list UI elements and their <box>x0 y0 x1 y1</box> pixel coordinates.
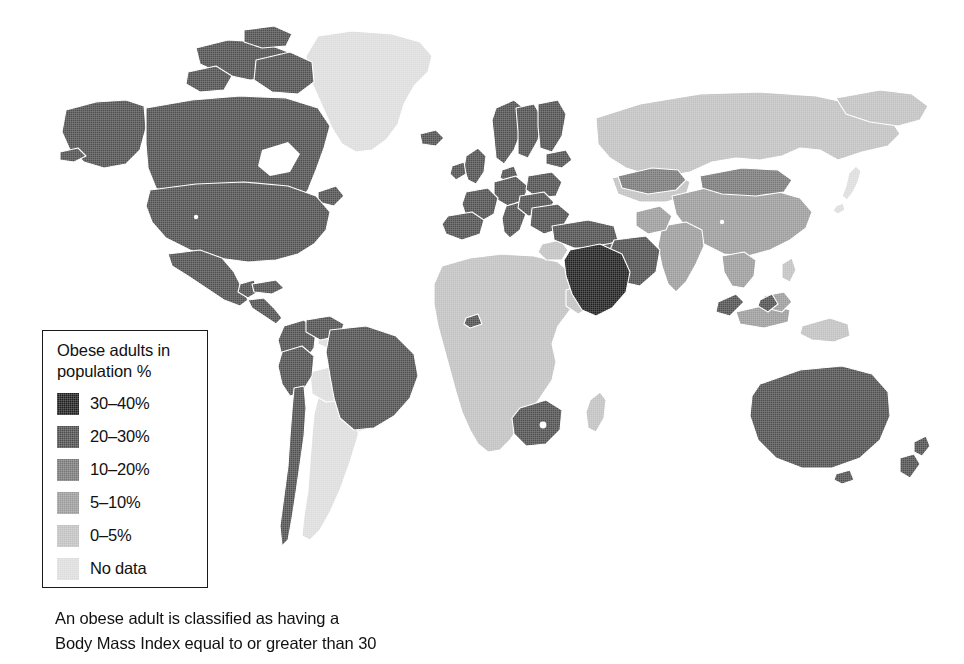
region-iceland <box>420 130 444 146</box>
legend-row-no-data[interactable]: No data <box>57 552 207 585</box>
region-baffin-island <box>254 52 314 94</box>
region-philippines <box>782 258 796 282</box>
region-cuba <box>252 280 284 294</box>
map-mark-usa <box>194 215 198 219</box>
region-central-america <box>248 298 282 324</box>
region-tasmania <box>834 470 854 484</box>
region-finland <box>538 100 566 152</box>
legend-row-20-30[interactable]: 20–30% <box>57 420 207 453</box>
legend-title: Obese adults in population % <box>57 340 199 382</box>
region-mongolia <box>700 168 792 196</box>
legend-swatch-20-30 <box>57 426 79 448</box>
region-southeast-asia <box>722 252 756 288</box>
legend-swatch-30-40 <box>57 393 79 415</box>
legend-label-10-20: 10–20% <box>90 460 149 479</box>
region-new-zealand-south <box>900 454 920 478</box>
legend-swatch-5-10 <box>57 492 79 514</box>
legend-swatch-10-20 <box>57 459 79 481</box>
legend-title-line-2: population % <box>57 361 199 382</box>
legend-row-30-40[interactable]: 30–40% <box>57 387 207 420</box>
legend-label-no-data: No data <box>90 559 146 578</box>
region-japan-south <box>833 203 845 214</box>
region-india <box>658 222 704 292</box>
legend-label-0-5: 0–5% <box>90 526 131 545</box>
region-australia <box>750 366 890 468</box>
legend-swatch-no-data <box>57 558 79 580</box>
region-spain <box>442 212 484 240</box>
legend-row-0-5[interactable]: 0–5% <box>57 519 207 552</box>
map-mark-lesotho <box>540 422 547 429</box>
region-chile <box>280 386 306 546</box>
caption-line-2: Body Mass Index equal to or greater than… <box>55 631 575 656</box>
region-new-zealand <box>914 436 930 456</box>
region-brazil <box>326 326 418 430</box>
legend-label-5-10: 5–10% <box>90 493 140 512</box>
region-pakistan <box>636 206 672 234</box>
region-ireland <box>450 162 466 180</box>
region-baltics <box>546 150 572 168</box>
legend-label-30-40: 30–40% <box>90 394 149 413</box>
map-legend: Obese adults in population % 30–40% 20–3… <box>42 330 208 588</box>
figure-caption: An obese adult is classified as having a… <box>55 606 575 656</box>
caption-line-1: An obese adult is classified as having a <box>55 606 575 631</box>
region-ellesmere <box>244 26 292 48</box>
region-papua <box>800 318 850 342</box>
legend-label-20-30: 20–30% <box>90 427 149 446</box>
legend-swatch-0-5 <box>57 525 79 547</box>
region-united-kingdom <box>464 148 486 184</box>
legend-row-5-10[interactable]: 5–10% <box>57 486 207 519</box>
map-mark-china <box>720 220 724 224</box>
region-madagascar <box>586 392 606 432</box>
legend-row-10-20[interactable]: 10–20% <box>57 453 207 486</box>
legend-title-line-1: Obese adults in <box>57 340 199 361</box>
region-united-states <box>146 182 330 262</box>
obesity-world-map-figure: Obese adults in population % 30–40% 20–3… <box>0 0 964 664</box>
region-japan <box>842 166 861 200</box>
